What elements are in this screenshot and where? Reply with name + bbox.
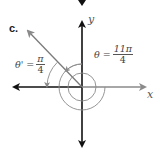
theta-label: θ = 11π 4 (94, 44, 133, 65)
theta-symbol: θ = (94, 49, 111, 60)
y-axis-label: y (88, 14, 94, 25)
reference-angle-label: θ' = π 4 (15, 54, 45, 75)
part-label: c. (9, 23, 18, 34)
unit-circle-diagram (0, 0, 160, 159)
reference-angle-fraction: π 4 (36, 54, 44, 75)
reference-angle-arc (47, 62, 57, 86)
theta-denominator: 4 (120, 55, 126, 65)
top-arrow-fragment (78, 0, 86, 6)
theta-fraction: 11π 4 (113, 44, 133, 65)
x-axis-label: x (147, 89, 153, 100)
reference-angle-denominator: 4 (37, 65, 43, 75)
reference-angle-symbol: θ' = (15, 59, 34, 70)
